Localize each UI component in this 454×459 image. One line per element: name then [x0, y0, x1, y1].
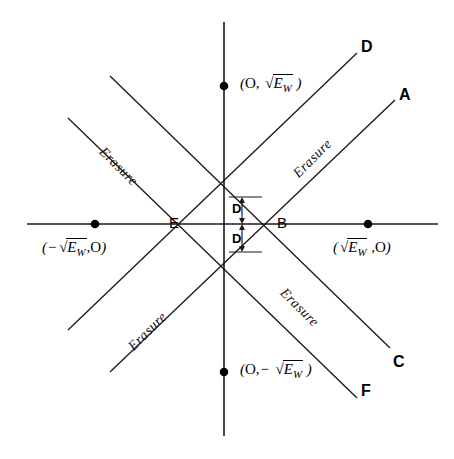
vertex-label-E: E [169, 214, 179, 231]
line-end-label-A: A [399, 86, 411, 104]
line-D [68, 53, 357, 330]
dim-arrowhead-lower-top [239, 224, 245, 230]
label-point-left-text: (−√EW,O) [42, 239, 106, 255]
dimension-label-D-lower: D [232, 231, 241, 246]
label-point-bottom: (O,− √EW ) [240, 360, 312, 380]
label-point-bottom-text: (O,− √EW ) [240, 361, 312, 377]
label-point-top-text: (O, √EW ) [240, 75, 302, 91]
dim-arrowhead-upper-bottom [239, 218, 245, 224]
line-end-label-C: C [393, 353, 405, 371]
dim-arrowhead-lower-bottom [239, 246, 245, 252]
line-C [110, 76, 390, 348]
line-end-label-D: D [361, 38, 373, 56]
dimension-label-D-upper: D [232, 201, 241, 216]
label-point-right: (√EW ,O) [333, 238, 391, 258]
label-point-right-text: (√EW ,O) [333, 239, 391, 255]
dot-bottom [220, 368, 229, 377]
dot-right [364, 220, 373, 229]
dot-top [220, 82, 229, 91]
diagram-svg [0, 0, 454, 459]
dot-left [91, 220, 100, 229]
label-point-left: (−√EW,O) [42, 238, 106, 258]
line-end-label-F: F [361, 382, 371, 400]
diagram-canvas: (O, √EW ) (−√EW,O) (√EW ,O) (O,− √EW ) E… [0, 0, 454, 459]
label-point-top: (O, √EW ) [240, 74, 302, 94]
vertex-label-B: B [277, 214, 287, 231]
